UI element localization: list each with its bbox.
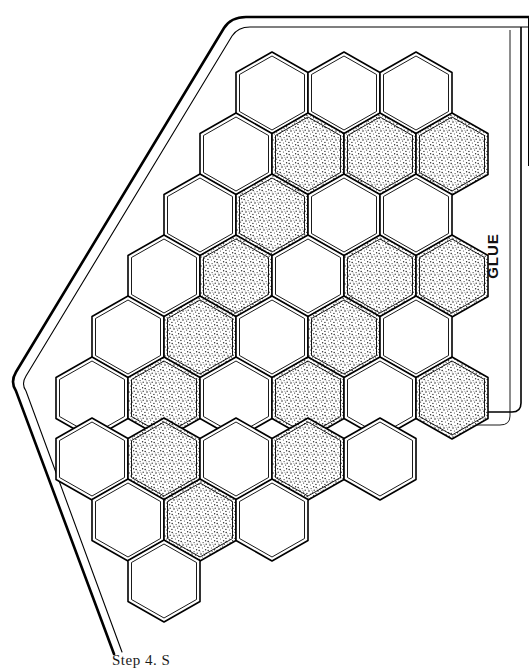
glue-label-group: GLUE <box>484 233 501 279</box>
hexagon-grid <box>56 52 488 622</box>
figure-caption: Step 4. S <box>112 652 170 669</box>
glue-label: GLUE <box>484 233 501 279</box>
hex-cell-r7c5[interactable] <box>344 418 416 500</box>
